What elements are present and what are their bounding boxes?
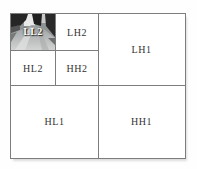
wavelet-decomposition-figure: LL2 LH2 HL2 HH2 LH1 HL1 HH1 [0, 0, 197, 169]
subband-label-lh1: LH1 [131, 44, 151, 55]
divider-horizontal-level2 [11, 50, 99, 51]
hh1-cell: HH1 [99, 86, 184, 157]
subband-label-lh2: LH2 [67, 27, 87, 38]
ll2-cell: LL2 [11, 14, 55, 50]
subband-label-hl2: HL2 [23, 63, 43, 74]
subband-label-hh2: HH2 [66, 63, 87, 74]
subband-label-hl1: HL1 [44, 116, 64, 127]
decomposition-outer-box: LL2 LH2 HL2 HH2 LH1 HL1 HH1 [10, 13, 186, 159]
subband-label-hh1: HH1 [131, 116, 152, 127]
hh2-cell: HH2 [56, 51, 98, 85]
lh1-cell: LH1 [99, 14, 184, 85]
hl1-cell: HL1 [11, 86, 98, 157]
subband-label-ll2: LL2 [11, 26, 55, 37]
divider-vertical-level1 [98, 14, 99, 158]
lh2-cell: LH2 [56, 14, 98, 50]
hl2-cell: HL2 [11, 51, 55, 85]
divider-horizontal-level1 [11, 85, 185, 86]
